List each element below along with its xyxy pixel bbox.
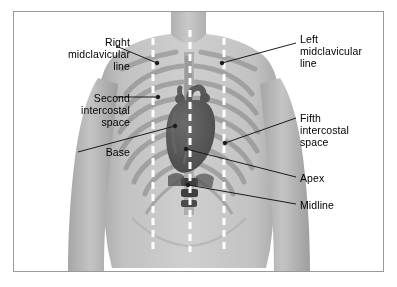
label-base: Base xyxy=(30,146,130,158)
label-midline: Midline xyxy=(300,199,392,211)
figure-container: Right midclavicular line Second intercos… xyxy=(0,0,397,287)
label-fifth-intercostal-space: Fifth intercostal space xyxy=(300,112,392,149)
label-left-midclavicular-line: Left midclavicular line xyxy=(300,33,392,70)
label-second-intercostal-space: Second intercostal space xyxy=(30,92,130,129)
label-right-midclavicular-line: Right midclavicular line xyxy=(30,36,130,73)
label-apex: Apex xyxy=(300,172,392,184)
